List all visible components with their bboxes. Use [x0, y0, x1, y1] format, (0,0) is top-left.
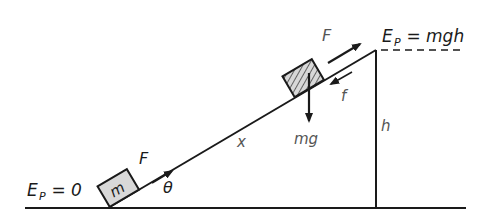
- height-label: h: [381, 117, 391, 135]
- force-arrow-top: [328, 44, 360, 63]
- incline-diagram: m F θ x mg F f h E P = 0 E P = mgh: [0, 0, 497, 222]
- block-top: [282, 59, 323, 97]
- force-label-top: F: [322, 26, 332, 45]
- svg-text:E: E: [382, 26, 393, 46]
- potential-energy-top-label: E P = mgh: [382, 26, 464, 49]
- weight-label: mg: [294, 130, 318, 148]
- svg-text:P: P: [39, 190, 46, 203]
- svg-text:= 0: = 0: [46, 180, 82, 200]
- friction-label: f: [341, 87, 349, 105]
- block-bottom: m: [98, 169, 139, 207]
- angle-label: θ: [163, 178, 173, 197]
- force-label-bottom: F: [139, 149, 149, 168]
- distance-label: x: [236, 133, 246, 151]
- potential-energy-bottom-label: E P = 0: [27, 180, 82, 203]
- svg-text:P: P: [394, 36, 401, 49]
- incline-line: [108, 50, 376, 208]
- svg-text:= mgh: = mgh: [401, 26, 464, 46]
- svg-text:E: E: [27, 180, 38, 200]
